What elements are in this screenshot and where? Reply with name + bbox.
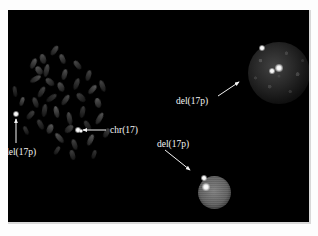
- chromosome: [83, 119, 93, 131]
- chromosome: [61, 69, 69, 81]
- chromosome: [41, 104, 48, 118]
- chromosome: [79, 106, 86, 119]
- chromosome: [72, 60, 82, 71]
- label-del17p-upper-right: del(17p): [176, 97, 208, 107]
- chromosome: [69, 150, 76, 161]
- annotation-arrow: [165, 150, 190, 170]
- chromosome: [70, 138, 78, 150]
- chromosome: [31, 96, 39, 108]
- chromosome: [63, 123, 74, 134]
- chromosome: [49, 45, 59, 57]
- chromosome: [44, 76, 56, 87]
- chromosome: [60, 94, 71, 107]
- micrograph-canvas: del(17p)chr(17)del(17p)del(17p): [8, 10, 309, 222]
- chromosome: [45, 123, 54, 135]
- chromosome: [43, 64, 51, 78]
- chromosome: [66, 112, 73, 126]
- chromosome: [12, 86, 17, 97]
- chromosome: [45, 93, 58, 104]
- chromosome: [39, 53, 47, 64]
- chromosome: [98, 80, 107, 93]
- chromosome: [91, 150, 98, 160]
- chromosome: [58, 53, 66, 64]
- annotation-arrow: [218, 82, 239, 96]
- chromosome: [19, 97, 26, 107]
- chromosome: [75, 91, 87, 103]
- label-del17p-left: del(17p): [8, 148, 36, 158]
- chromosome: [53, 146, 61, 156]
- chromosome: [53, 106, 60, 119]
- chromosome: [94, 112, 105, 126]
- chromosome: [72, 78, 81, 91]
- chromosome: [22, 126, 29, 136]
- fish-micrograph-figure: del(17p)chr(17)del(17p)del(17p): [0, 0, 318, 236]
- chromosome: [36, 118, 46, 130]
- label-del17p-lower-right: del(17p): [157, 140, 189, 150]
- label-chr17: chr(17): [110, 126, 138, 136]
- plate-edge-bottom: [8, 222, 311, 224]
- fish-signal-spot: [13, 111, 19, 117]
- chromosome: [54, 132, 66, 144]
- chromosome: [56, 81, 66, 93]
- annotation-arrow-layer: [8, 10, 309, 222]
- fish-signal-spot: [75, 127, 80, 132]
- interphase-nucleus-large-texture: [248, 42, 309, 104]
- chromosome: [87, 84, 98, 96]
- chromosome: [86, 134, 96, 147]
- chromosome: [85, 70, 93, 82]
- chromosome: [36, 86, 46, 99]
- interphase-nucleus-small-texture: [198, 176, 231, 209]
- plate-edge-right: [309, 10, 311, 223]
- chromosome: [29, 74, 42, 84]
- chromosome: [25, 110, 35, 121]
- fish-signal-spot: [79, 129, 84, 134]
- chromosome: [94, 97, 102, 108]
